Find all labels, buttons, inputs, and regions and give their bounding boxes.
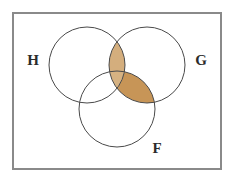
universal-set-box: [13, 13, 221, 169]
venn-diagram-canvas: H G F: [0, 0, 233, 181]
set-label-g: G: [195, 52, 207, 68]
set-label-h: H: [27, 52, 39, 68]
set-label-f: F: [152, 140, 161, 156]
venn-diagram-figure: H G F: [0, 0, 233, 181]
